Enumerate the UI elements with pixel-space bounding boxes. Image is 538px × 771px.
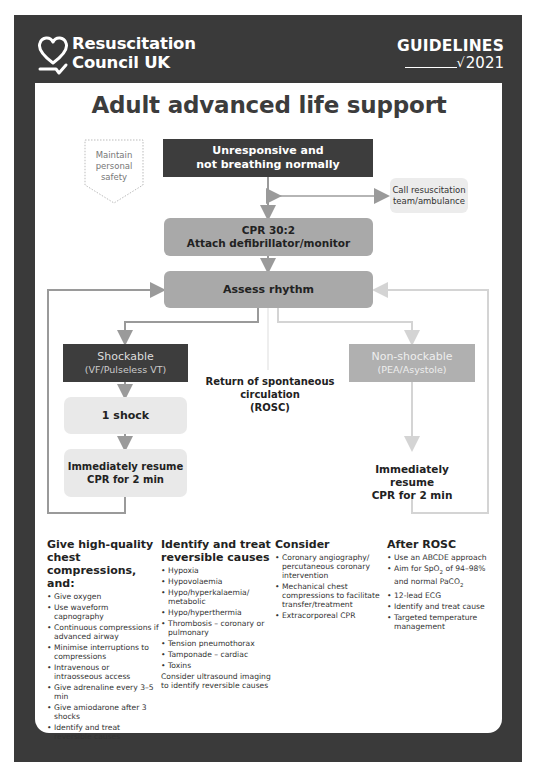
list-item: Hypoxia [161,566,271,575]
rosc-line-1: Return of spontaneous [200,375,340,388]
ultrasound-note: Consider ultrasound imaging to identify … [161,672,271,690]
list-item: Hypovolaemia [161,577,271,586]
call-line-1: Call resuscitation [392,185,465,196]
cpr-line-1: CPR 30:2 [242,224,295,237]
non-shockable-subtitle: (PEA/Asystole) [378,363,447,376]
one-shock-label: 1 shock [102,409,149,422]
list-item: Give amiodarone after 3 shocks [47,703,159,721]
maintain-safety-label: Maintain personal safety [84,150,144,183]
list-item: 12-lead ECG [387,591,499,600]
safety-line-2: personal [84,161,144,172]
list-item: Tamponade – cardiac [161,650,271,659]
list-item: Targeted temperature management [387,613,499,631]
call-team-box: Call resuscitation team/ambulance [390,178,468,213]
column-heading: Consider [275,538,381,551]
non-shockable-box: Non-shockable (PEA/Asystole) [349,344,475,382]
shockable-title: Shockable [97,350,153,363]
list-item: Give oxygen [47,592,159,601]
compressions-list: Give oxygen Use waveform capnography Con… [47,592,159,741]
column-heading: After ROSC [387,538,499,551]
one-shock-box: 1 shock [64,397,187,434]
column-heading: Identify and treat reversible causes [161,538,271,564]
non-shockable-title: Non-shockable [371,350,452,363]
list-item: Identify and treat cause [387,602,499,611]
resume-left-line-1: Immediately resume [68,460,184,473]
list-item: Toxins [161,661,271,670]
resume-cpr-left-box: Immediately resume CPR for 2 min [64,449,187,497]
list-item: Hypo/hyperkalaemia/ metabolic [161,588,271,606]
resume-right-line-1: Immediately resume [352,463,472,489]
cpr-line-2: Attach defibrillator/monitor [187,237,351,250]
unresponsive-box: Unresponsive and not breathing normally [163,139,373,177]
cpr-box: CPR 30:2 Attach defibrillator/monitor [164,218,373,256]
list-item: Minimise interruptions to compressions [47,643,159,661]
list-item: Aim for SpO2 of 94–98% and normal PaCO2 [387,564,499,589]
consider-list: Coronary angiography/ percutaneous coron… [275,553,381,620]
rosc-line-3: (ROSC) [200,401,340,414]
list-item: Identify and treat reversible causes [47,723,159,741]
assess-rhythm-box: Assess rhythm [164,271,373,308]
list-item: Continuous compressions if advanced airw… [47,623,159,641]
resume-left-line-2: CPR for 2 min [87,473,164,486]
safety-line-3: safety [84,172,144,183]
list-item: Thrombosis – coronary or pulmonary [161,619,271,637]
list-item: Extracorporeal CPR [275,611,381,620]
shockable-box: Shockable (VF/Pulseless VT) [63,344,188,382]
unresponsive-line-2: not breathing normally [196,158,339,172]
unresponsive-line-1: Unresponsive and [212,144,323,158]
column-after-rosc: After ROSC Use an ABCDE approach Aim for… [387,538,499,633]
list-item: Mechanical chest compressions to facilit… [275,582,381,609]
assess-rhythm-label: Assess rhythm [223,283,314,296]
column-reversible-causes: Identify and treat reversible causes Hyp… [161,538,271,690]
after-rosc-list: Use an ABCDE approach Aim for SpO2 of 94… [387,553,499,631]
list-item: Hypo/hyperthermia [161,608,271,617]
safety-line-1: Maintain [84,150,144,161]
resume-cpr-right-label: Immediately resume CPR for 2 min [352,463,472,502]
list-item: Coronary angiography/ percutaneous coron… [275,553,381,580]
column-heading: Give high-quality chest compressions, an… [47,538,159,590]
resume-right-line-2: CPR for 2 min [352,489,472,502]
rosc-line-2: circulation [200,388,340,401]
rosc-label: Return of spontaneous circulation (ROSC) [200,375,340,414]
call-line-2: team/ambulance [392,196,465,207]
column-compressions: Give high-quality chest compressions, an… [47,538,159,743]
causes-list: Hypoxia Hypovolaemia Hypo/hyperkalaemia/… [161,566,271,670]
list-item: Give adrenaline every 3–5 min [47,683,159,701]
column-consider: Consider Coronary angiography/ percutane… [275,538,381,622]
list-item: Use an ABCDE approach [387,553,499,562]
list-item: Tension pneumothorax [161,639,271,648]
list-item: Use waveform capnography [47,603,159,621]
shockable-subtitle: (VF/Pulseless VT) [85,363,166,376]
list-item: Intravenous or intraosseous access [47,663,159,681]
